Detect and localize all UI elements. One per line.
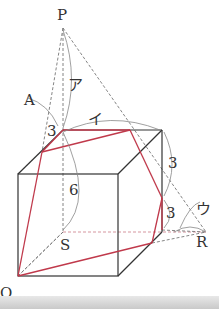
bottom-bar bbox=[0, 296, 219, 309]
angle-label-a: ア bbox=[68, 76, 83, 94]
length-label-right-upper-3: 3 bbox=[168, 154, 178, 172]
angle-label-i: イ bbox=[88, 110, 103, 128]
hidden-lines bbox=[18, 28, 206, 276]
length-label-6: 6 bbox=[69, 181, 79, 199]
cube-pyramid-diagram: P A Q R S ア イ ウ 3 6 3 3 bbox=[0, 0, 219, 309]
point-label-s: S bbox=[60, 236, 70, 254]
length-label-right-lower-3: 3 bbox=[166, 204, 176, 222]
length-label-top-3: 3 bbox=[47, 122, 57, 140]
angle-label-u: ウ bbox=[196, 200, 211, 218]
point-label-p: P bbox=[57, 6, 67, 24]
point-label-r: R bbox=[196, 233, 208, 251]
point-label-a: A bbox=[23, 91, 35, 109]
